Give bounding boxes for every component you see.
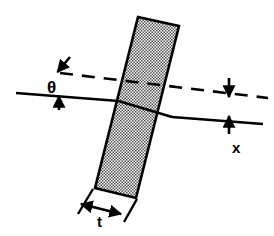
diagram-canvas: θ x t <box>0 0 274 236</box>
angle-label: θ <box>47 78 56 97</box>
thickness-label: t <box>97 213 102 230</box>
displacement-label: x <box>232 139 241 156</box>
optical-ray-diagram-figure: θ x t <box>0 0 274 236</box>
